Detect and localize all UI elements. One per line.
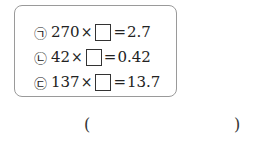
- times-sign: ×: [81, 74, 93, 90]
- equals-sign: =: [113, 23, 126, 41]
- option-marker: ㉡: [34, 48, 47, 67]
- option-2: ㉡ 42 × = 0.42: [34, 44, 151, 70]
- result: 13.7: [127, 73, 160, 91]
- equals-sign: =: [104, 48, 117, 66]
- blank-box[interactable]: [95, 24, 111, 41]
- blank-box[interactable]: [86, 49, 102, 66]
- answer-close-paren: ): [234, 115, 240, 134]
- result: 0.42: [117, 48, 150, 66]
- left-operand: 137: [51, 73, 80, 91]
- times-sign: ×: [71, 49, 83, 65]
- option-3: ㉢ 137 × = 13.7: [34, 69, 160, 95]
- result: 2.7: [127, 23, 151, 41]
- options-box: ㉠ 270 × = 2.7 ㉡ 42 × = 0.42 ㉢ 137 × = 13…: [14, 5, 177, 97]
- left-operand: 270: [51, 23, 80, 41]
- option-marker: ㉠: [34, 23, 47, 42]
- times-sign: ×: [81, 24, 93, 40]
- blank-box[interactable]: [95, 74, 111, 91]
- answer-open-paren: (: [84, 115, 90, 134]
- option-marker: ㉢: [34, 73, 47, 92]
- left-operand: 42: [51, 48, 70, 66]
- option-1: ㉠ 270 × = 2.7: [34, 19, 151, 45]
- equals-sign: =: [113, 73, 126, 91]
